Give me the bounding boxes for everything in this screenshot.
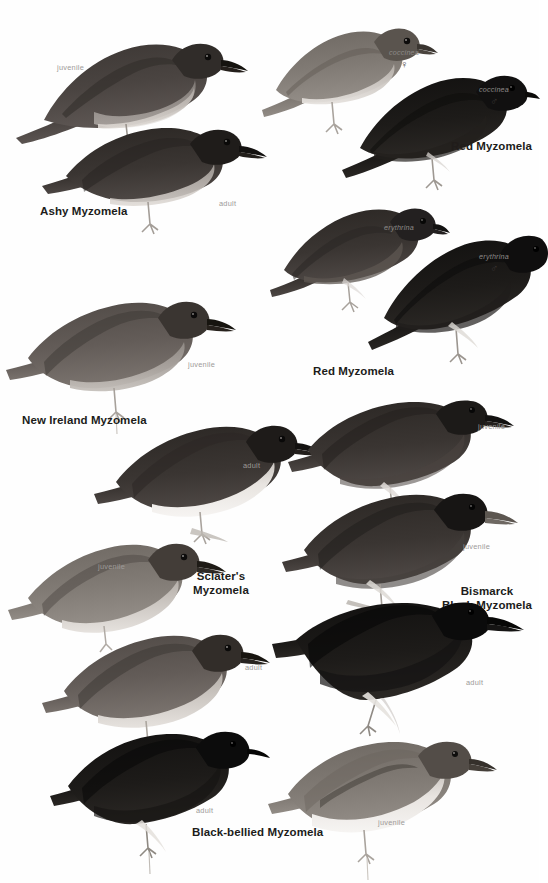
age-label-sclaters-juvenile: juvenile bbox=[98, 562, 125, 571]
male-symbol: ♂ bbox=[468, 262, 520, 274]
age-label-new-ireland-adult: adult bbox=[243, 461, 260, 470]
species-name-ashy-myzomela: Ashy Myzomela bbox=[40, 205, 128, 219]
bird-figure-ashy-adult bbox=[38, 120, 268, 260]
species-name-line-1: Sclater's bbox=[197, 570, 245, 582]
age-label-new-ireland-juvenile: juvenile bbox=[188, 360, 215, 369]
age-label-bismarck-adult: adult bbox=[466, 678, 483, 687]
age-label-ashy-adult: adult bbox=[219, 199, 236, 208]
male-symbol: ♂ bbox=[468, 95, 520, 107]
age-label-bismarck-juvenile-2: juvenile bbox=[463, 542, 490, 551]
species-name-line-1: Bismarck bbox=[461, 585, 514, 597]
age-label-black-bellied-adult: adult bbox=[196, 806, 213, 815]
subspecies-name: coccinea bbox=[479, 85, 509, 94]
species-name-sclaters-myzomela: Sclater's Myzomela bbox=[178, 569, 264, 597]
species-name-red-myzomela-coccinea: Red Myzomela bbox=[451, 140, 532, 154]
bird-figure-red-coccinea-male bbox=[340, 52, 540, 202]
bird-figure-black-bellied-juvenile bbox=[268, 738, 498, 883]
age-label-black-bellied-juvenile: juvenile bbox=[378, 818, 405, 827]
subspecies-label-erythrina-male: erythrina ♂ bbox=[468, 252, 520, 274]
subspecies-name: erythrina bbox=[479, 252, 509, 261]
bird-figure-black-bellied-adult bbox=[50, 728, 270, 878]
species-name-line-2: Myzomela bbox=[193, 584, 249, 596]
subspecies-label-coccinea-male: coccinea ♂ bbox=[468, 85, 520, 107]
bird-figure-red-erythrina-male bbox=[368, 212, 548, 372]
species-name-red-myzomela-erythrina: Red Myzomela bbox=[313, 365, 394, 379]
age-label-ashy-juvenile: juvenile bbox=[57, 63, 84, 72]
age-label-sclaters-adult: adult bbox=[245, 663, 262, 672]
age-label-bismarck-juvenile-1: juvenile bbox=[478, 422, 505, 431]
bird-figure-bismarck-adult bbox=[272, 600, 532, 750]
